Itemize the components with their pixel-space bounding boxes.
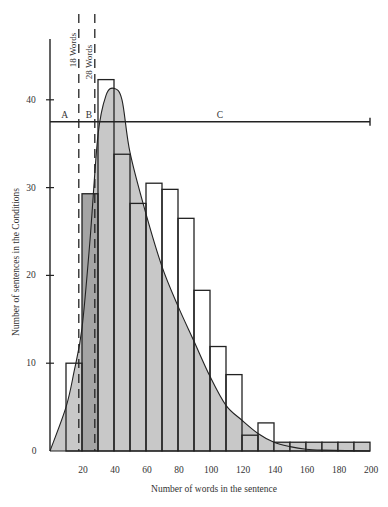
x-tick-label: 140: [268, 465, 283, 475]
x-tick-label: 200: [364, 465, 379, 475]
region-label-c: C: [217, 110, 223, 120]
x-tick-label: 80: [174, 465, 184, 475]
highlight-bin-fill: [82, 194, 98, 451]
y-tick-label: 0: [32, 446, 37, 456]
region-label-a: A: [61, 110, 68, 120]
y-axis-label: Number of sentences in the Conditions: [11, 188, 21, 336]
x-tick-label: 160: [300, 465, 315, 475]
x-tick-label: 100: [204, 465, 219, 475]
histogram-bar: [354, 442, 370, 451]
x-tick-label: 20: [78, 465, 88, 475]
x-tick-label: 120: [236, 465, 251, 475]
x-axis-label: Number of words in the sentence: [151, 484, 277, 494]
x-tick-label: 40: [110, 465, 120, 475]
y-tick-label: 20: [26, 270, 36, 280]
x-tick-label: 180: [332, 465, 347, 475]
reference-label-18: 18 Words: [68, 32, 78, 67]
y-tick-label: 40: [26, 95, 36, 105]
histogram-chart: 01020304020406080100120140160180200ABC 1…: [0, 0, 388, 507]
highlighted-bin: [82, 194, 98, 451]
y-tick-label: 30: [26, 183, 36, 193]
x-tick-label: 60: [142, 465, 152, 475]
region-label-b: B: [86, 110, 92, 120]
reference-label-28: 28 Words: [84, 44, 94, 79]
y-tick-label: 10: [26, 358, 36, 368]
histogram-bar: [338, 442, 354, 451]
